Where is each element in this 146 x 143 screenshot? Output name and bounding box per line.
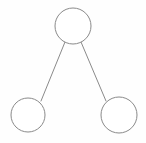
node-root[interactable] <box>55 8 91 44</box>
edge-root-to-left-child <box>41 42 65 101</box>
tree-diagram-svg <box>0 0 146 143</box>
edge-root-to-right-child <box>81 42 106 101</box>
node-child-right[interactable] <box>101 97 137 133</box>
node-child-left[interactable] <box>11 98 45 132</box>
tree-diagram-canvas <box>0 0 146 143</box>
